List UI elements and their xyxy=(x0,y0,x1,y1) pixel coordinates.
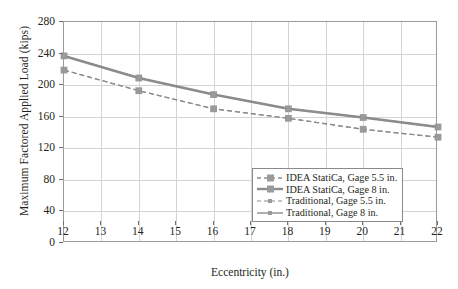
series-marker xyxy=(436,125,440,129)
legend-key-icon xyxy=(257,208,283,218)
y-tick-label: 160 xyxy=(15,110,55,122)
series-line xyxy=(64,56,438,127)
y-tick-label: 240 xyxy=(15,47,55,59)
series-line xyxy=(64,70,438,137)
x-tick-label: 19 xyxy=(305,225,345,237)
series-marker xyxy=(361,127,365,131)
x-tick-mark xyxy=(138,221,139,225)
x-tick-mark xyxy=(175,221,176,225)
legend-key-icon xyxy=(257,184,283,194)
series-marker xyxy=(286,107,290,111)
y-tick-mark xyxy=(59,179,63,180)
series-marker xyxy=(212,93,216,97)
y-tick-mark xyxy=(59,242,63,243)
y-tick-label: 120 xyxy=(15,141,55,153)
x-tick-mark xyxy=(437,221,438,225)
x-tick-label: 20 xyxy=(342,225,382,237)
series-line xyxy=(64,70,438,137)
legend-item: IDEA StatiCa, Gage 8 in. xyxy=(257,184,397,196)
legend-item: Traditional, Gage 5.5 in. xyxy=(257,195,397,207)
chart-figure: Maximum Factored Applied Load (kips) 040… xyxy=(0,0,458,289)
x-tick-mark xyxy=(100,221,101,225)
y-tick-mark xyxy=(59,210,63,211)
x-axis-title: Eccentricity (in.) xyxy=(63,266,437,278)
legend-label: Traditional, Gage 5.5 in. xyxy=(286,195,386,207)
series-marker xyxy=(212,107,216,111)
y-tick-mark xyxy=(59,53,63,54)
series-marker xyxy=(137,76,141,80)
legend-label: IDEA StatiCa, Gage 5.5 in. xyxy=(286,172,397,184)
legend-item: Traditional, Gage 8 in. xyxy=(257,207,397,219)
x-tick-mark xyxy=(250,221,251,225)
series-marker xyxy=(286,116,290,120)
series-marker xyxy=(62,68,66,72)
x-tick-label: 13 xyxy=(80,225,120,237)
series-marker xyxy=(436,135,440,139)
series-marker xyxy=(137,89,141,93)
x-tick-label: 17 xyxy=(230,225,270,237)
y-tick-label: 0 xyxy=(15,236,55,248)
legend-item: IDEA StatiCa, Gage 5.5 in. xyxy=(257,172,397,184)
x-tick-label: 16 xyxy=(193,225,233,237)
x-tick-mark xyxy=(213,221,214,225)
legend-label: Traditional, Gage 8 in. xyxy=(286,207,378,219)
y-tick-mark xyxy=(59,147,63,148)
y-tick-label: 200 xyxy=(15,78,55,90)
y-tick-label: 80 xyxy=(15,173,55,185)
y-tick-mark xyxy=(59,84,63,85)
y-tick-mark xyxy=(59,21,63,22)
legend-key-icon xyxy=(257,196,283,206)
legend-key-icon xyxy=(257,173,283,183)
x-tick-mark xyxy=(63,221,64,225)
chart-legend: IDEA StatiCa, Gage 5.5 in. IDEA StatiCa,… xyxy=(252,168,403,222)
series-line xyxy=(64,56,438,127)
series-marker xyxy=(361,116,365,120)
x-tick-label: 14 xyxy=(118,225,158,237)
x-tick-label: 15 xyxy=(155,225,195,237)
y-tick-label: 40 xyxy=(15,204,55,216)
legend-label: IDEA StatiCa, Gage 8 in. xyxy=(286,184,390,196)
x-tick-label: 12 xyxy=(43,225,83,237)
x-tick-label: 18 xyxy=(267,225,307,237)
series-marker xyxy=(62,54,66,58)
y-tick-mark xyxy=(59,116,63,117)
x-tick-label: 22 xyxy=(417,225,457,237)
y-tick-label: 280 xyxy=(15,15,55,27)
x-tick-label: 21 xyxy=(380,225,420,237)
